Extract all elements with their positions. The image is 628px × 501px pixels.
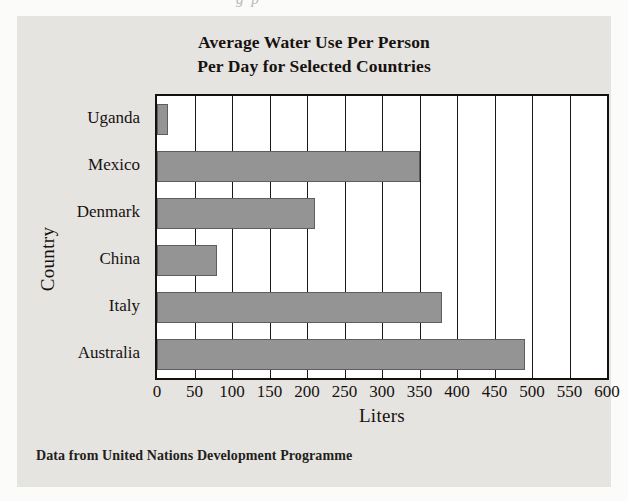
x-tick-label-550: 550 <box>557 382 583 402</box>
bar-row-china <box>157 237 607 284</box>
x-tick-label-300: 300 <box>369 382 395 402</box>
x-axis-title: Liters <box>155 405 609 427</box>
category-label-italy: Italy <box>17 282 149 329</box>
bar-row-uganda <box>157 96 607 143</box>
category-axis-labels: UgandaMexicoDenmarkChinaItalyAustralia <box>17 94 149 376</box>
x-tick-label-250: 250 <box>332 382 358 402</box>
category-label-australia: Australia <box>17 329 149 376</box>
figure-panel: Average Water Use Per PersonPer Day for … <box>17 16 611 487</box>
x-tick-label-500: 500 <box>519 382 545 402</box>
bar-row-denmark <box>157 190 607 237</box>
bars-layer <box>157 96 607 378</box>
category-label-mexico: Mexico <box>17 141 149 188</box>
x-tick-label-0: 0 <box>153 382 162 402</box>
category-label-denmark: Denmark <box>17 188 149 235</box>
x-tick-label-600: 600 <box>594 382 620 402</box>
bar-row-mexico <box>157 143 607 190</box>
x-tick-label-100: 100 <box>219 382 245 402</box>
scan-artifact-text: g p <box>236 0 261 8</box>
x-tick-label-200: 200 <box>294 382 320 402</box>
x-tick-label-150: 150 <box>257 382 283 402</box>
bar-denmark <box>157 198 315 229</box>
bar-mexico <box>157 151 420 182</box>
x-tick-label-50: 50 <box>186 382 203 402</box>
chart-title: Average Water Use Per PersonPer Day for … <box>17 30 611 78</box>
source-note: Data from United Nations Development Pro… <box>36 448 352 464</box>
bar-row-australia <box>157 331 607 378</box>
chart-title-line-1: Average Water Use Per Person <box>17 30 611 54</box>
bar-row-italy <box>157 284 607 331</box>
plot-area <box>155 94 609 380</box>
bar-uganda <box>157 104 168 135</box>
bar-italy <box>157 292 442 323</box>
category-label-china: China <box>17 235 149 282</box>
x-tick-label-450: 450 <box>482 382 508 402</box>
x-axis-tick-labels: 050100150200250300350400450500550600 <box>155 382 609 406</box>
bar-china <box>157 245 217 276</box>
category-label-uganda: Uganda <box>17 94 149 141</box>
bar-australia <box>157 339 525 370</box>
chart-title-line-2: Per Day for Selected Countries <box>17 54 611 78</box>
x-tick-label-400: 400 <box>444 382 470 402</box>
x-tick-label-350: 350 <box>407 382 433 402</box>
